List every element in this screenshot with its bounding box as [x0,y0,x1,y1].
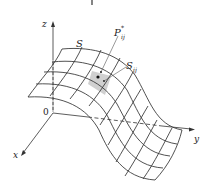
z-arrow-icon [51,21,55,27]
point-label-sub: ij [121,33,125,41]
x-arrow-icon [21,150,26,156]
x-axis [21,113,53,156]
y-arrow-icon [189,128,195,132]
y-axis-label: y [193,134,200,144]
patch-label-main: S [126,60,133,71]
patch-label-sub: ij [133,66,137,74]
origin-label: 0 [43,107,49,117]
point-label-sup: * [121,24,124,31]
point-label: P * ij [113,24,125,41]
patch-label: S ij [126,60,137,74]
surface-label: S [76,38,83,49]
patch-leader [103,67,126,82]
diagram-canvas: z 0 x y S P * ij S ij [0,0,205,185]
y-axis [53,113,195,132]
surface-mesh [28,47,182,180]
x-axis-label: x [13,150,18,160]
z-axis-label: z [41,19,47,29]
surface-integral-figure: z 0 x y S P * ij S ij [0,0,205,185]
point-label-main: P [113,27,121,38]
